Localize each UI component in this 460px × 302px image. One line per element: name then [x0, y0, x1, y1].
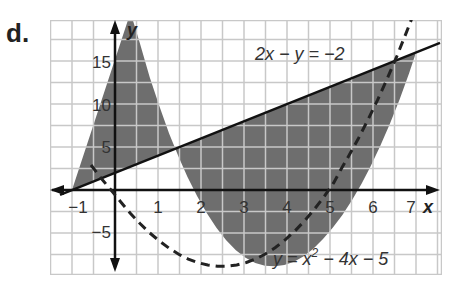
x-axis-label: x: [422, 197, 434, 217]
x-tick-1: 1: [153, 198, 162, 217]
x-tick-6: 6: [368, 198, 377, 217]
x-tick-3: 3: [239, 198, 248, 217]
x-tick--1: −1: [68, 198, 87, 217]
y-axis-arrow-up: [110, 20, 120, 34]
y-axis-label: y: [126, 20, 138, 40]
y-tick-15: 15: [92, 53, 111, 72]
x-tick-5: 5: [325, 198, 334, 217]
line-equation-label: 2x − y = −2: [254, 44, 345, 64]
parabola-equation-label: y = x2 − 4x − 5: [271, 246, 389, 269]
x-tick-4: 4: [282, 198, 291, 217]
chart: −1 1 2 3 4 5 6 7 x −5 5 10 15 y 2x − y =…: [0, 0, 460, 302]
y-axis-arrow-down: [110, 258, 120, 272]
y-tick-10: 10: [92, 96, 111, 115]
y-tick--5: −5: [92, 223, 111, 242]
x-tick-7: 7: [406, 198, 415, 217]
x-tick-2: 2: [196, 198, 205, 217]
y-tick-5: 5: [102, 138, 111, 157]
